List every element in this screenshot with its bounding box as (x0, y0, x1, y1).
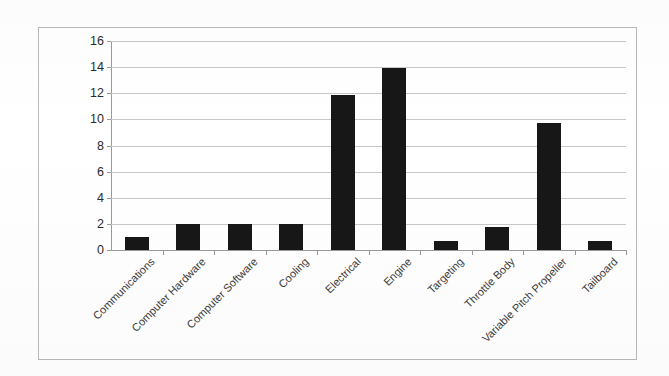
x-tick-mark (163, 250, 164, 255)
bars-layer (111, 41, 626, 250)
bar (279, 224, 303, 250)
x-tick-mark (472, 250, 473, 255)
bar (331, 95, 355, 250)
x-axis-label: Throttle Body (463, 256, 517, 310)
y-tick-label: 10 (90, 113, 104, 126)
bar (588, 241, 612, 250)
y-tick-label: 4 (97, 192, 104, 205)
y-tick-label: 0 (97, 244, 104, 257)
x-tick-mark (266, 250, 267, 255)
plot-area: 0246810121416 (111, 41, 626, 250)
y-tick-mark (107, 250, 111, 251)
x-tick-mark (420, 250, 421, 255)
bar (125, 237, 149, 250)
x-tick-mark (214, 250, 215, 255)
bar (228, 224, 252, 250)
x-axis-label: Engine (382, 256, 414, 288)
x-tick-mark (369, 250, 370, 255)
y-tick-label: 6 (97, 165, 104, 178)
bar (176, 224, 200, 250)
bar (382, 68, 406, 250)
bar (434, 241, 458, 250)
x-tick-mark (626, 250, 627, 255)
bar (537, 123, 561, 250)
x-axis-category-labels: CommunicationsComputer HardwareComputer … (111, 256, 626, 356)
x-axis-label: Cooling (277, 256, 311, 290)
x-tick-mark (575, 250, 576, 255)
x-axis-label: Electrical (323, 256, 362, 295)
y-tick-label: 14 (90, 61, 104, 74)
chart-frame: 0246810121416 CommunicationsComputer Har… (38, 27, 637, 360)
bar (485, 227, 509, 251)
x-tick-mark (523, 250, 524, 255)
x-axis-label: Tailboard (581, 256, 620, 295)
y-tick-label: 2 (97, 218, 104, 231)
y-tick-label: 16 (90, 35, 104, 48)
y-tick-label: 8 (97, 139, 104, 152)
x-tick-mark (317, 250, 318, 255)
y-tick-label: 12 (90, 87, 104, 100)
x-axis-label: Targeting (426, 256, 466, 296)
